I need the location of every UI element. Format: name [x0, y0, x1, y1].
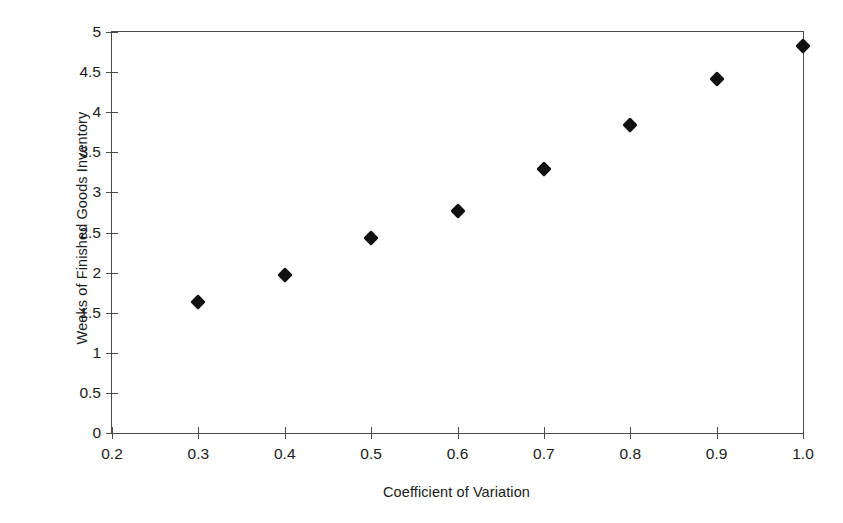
x-axis-tick [458, 427, 459, 439]
y-axis-tick-label: 2 [92, 264, 101, 282]
y-axis-tick [106, 393, 118, 394]
data-point [622, 117, 638, 133]
y-axis-tick-label: 4 [92, 103, 101, 121]
x-axis-tick [717, 427, 718, 439]
y-axis-tick [106, 273, 118, 274]
y-axis-tick [106, 152, 118, 153]
x-axis-tick-label: 1.0 [792, 445, 814, 463]
y-axis-tick-label: 5 [92, 23, 101, 41]
data-point [795, 38, 811, 54]
data-point [536, 161, 552, 177]
y-axis-tick-label: 1 [92, 344, 101, 362]
y-axis-tick-label: 0 [92, 424, 101, 442]
x-axis-tick [198, 427, 199, 439]
data-point [191, 294, 207, 310]
data-point [709, 71, 725, 87]
data-point [450, 203, 466, 219]
x-axis-tick [630, 427, 631, 439]
x-axis-tick-label: 0.2 [101, 445, 123, 463]
x-axis-tick-label: 0.4 [274, 445, 296, 463]
x-axis-tick-label: 0.8 [619, 445, 641, 463]
y-axis-tick-label: 2.5 [79, 224, 101, 242]
x-axis-tick [371, 427, 372, 439]
y-axis-tick [106, 313, 118, 314]
x-axis-tick-label: 0.5 [360, 445, 382, 463]
x-axis-tick [803, 427, 804, 439]
y-axis-tick [106, 112, 118, 113]
x-axis-tick [112, 427, 113, 439]
y-axis-tick-label: 1.5 [79, 304, 101, 322]
y-axis-tick-label: 4.5 [79, 63, 101, 81]
x-axis-tick-label: 0.6 [447, 445, 469, 463]
y-axis-tick-label: 3.5 [79, 143, 101, 161]
y-axis-tick [106, 233, 118, 234]
x-axis-tick [285, 427, 286, 439]
y-axis-tick [106, 192, 118, 193]
y-axis-tick-label: 0.5 [79, 384, 101, 402]
chart-figure: Weeks of Finished Goods Inventory Coeffi… [0, 0, 843, 523]
x-axis-tick-label: 0.3 [188, 445, 210, 463]
y-axis-tick [106, 353, 118, 354]
x-axis-tick [544, 427, 545, 439]
y-axis-tick-label: 3 [92, 183, 101, 201]
y-axis-tick [106, 32, 118, 33]
plot-area: 00.511.522.533.544.55 0.20.30.40.50.60.7… [111, 31, 804, 434]
data-point [277, 267, 293, 283]
y-axis-tick [106, 72, 118, 73]
x-axis-tick-label: 0.7 [533, 445, 555, 463]
x-axis-title: Coefficient of Variation [111, 484, 802, 500]
x-axis-tick-label: 0.9 [706, 445, 728, 463]
data-point [363, 230, 379, 246]
